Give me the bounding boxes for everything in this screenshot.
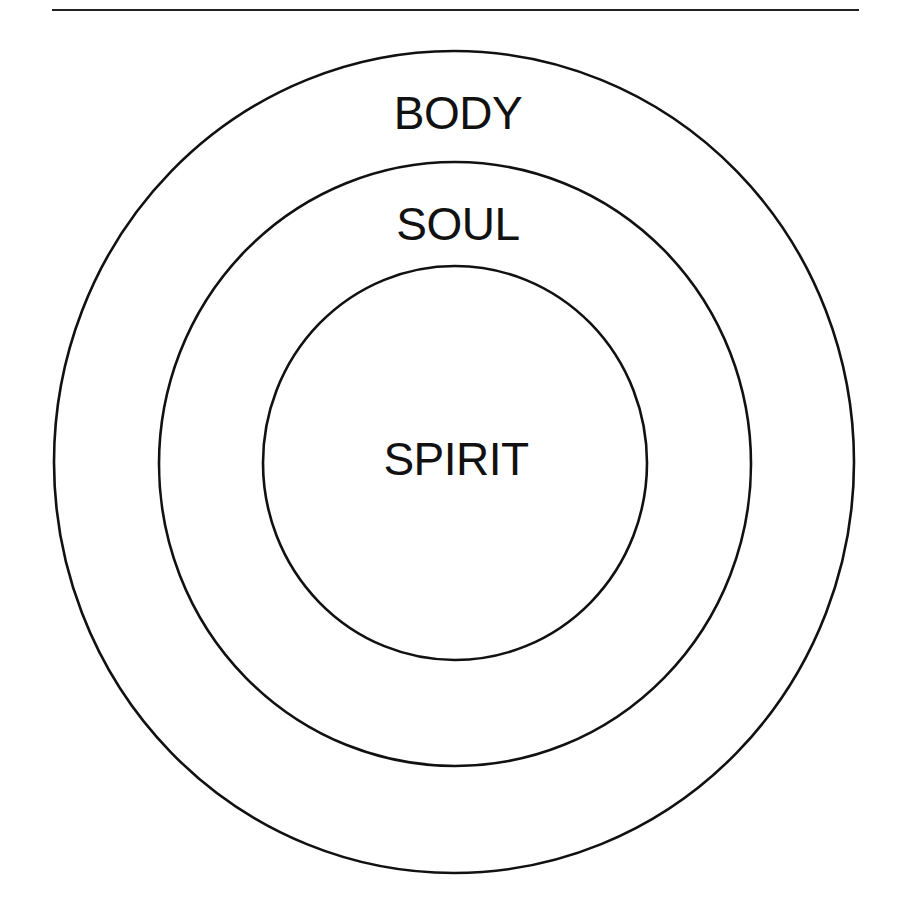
label-soul: SOUL [396,201,519,247]
label-spirit: SPIRIT [383,436,528,482]
label-body: BODY [394,90,522,136]
diagram-canvas: BODY SOUL SPIRIT [0,0,897,918]
